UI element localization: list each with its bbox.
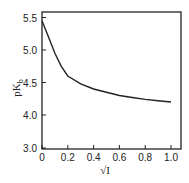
y-tick-label: 5.5 [23,13,37,24]
x-tick-label: 0.2 [61,152,75,163]
y-tick-label: 3.0 [23,143,37,154]
plot-frame [42,12,181,149]
y-tick-label: 5.0 [23,45,37,56]
x-tick-label: 0.6 [112,152,126,163]
y-tick-label: 4.5 [23,78,37,89]
x-tick-label: 0 [39,152,45,163]
x-tick-label: 0.4 [87,152,101,163]
x-axis-ticks: 00.20.40.60.81.0 [39,145,178,163]
y-tick-label: 4.0 [23,110,37,121]
x-tick-label: 1.0 [164,152,178,163]
x-axis-label: √I [100,164,110,176]
chart: 3.04.04.55.05.5 00.20.40.60.81.0 pKb √I [0,0,189,183]
data-curve [42,21,171,102]
x-tick-label: 0.8 [138,152,152,163]
